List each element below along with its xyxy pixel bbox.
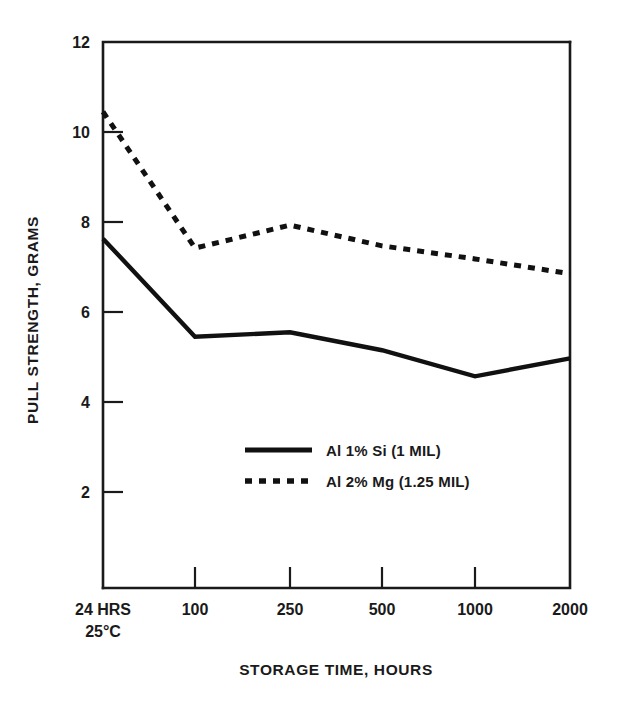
x-tick-label-100: 100 [182, 601, 209, 618]
pull-strength-line-chart: 12 10 8 6 4 2 24 HRS 25°C 100 250 500 10… [0, 0, 620, 709]
x-tick-label-1000: 1000 [457, 601, 493, 618]
y-tick-label-4: 4 [81, 394, 90, 411]
y-tick-label-8: 8 [81, 214, 90, 231]
y-axis-title: PULL STRENGTH, GRAMS [24, 216, 41, 424]
y-tick-label-6: 6 [81, 304, 90, 321]
x-tick-label-500: 500 [369, 601, 396, 618]
x-tick-label-25c: 25°C [85, 623, 121, 640]
x-axis-title: STORAGE TIME, HOURS [239, 661, 433, 678]
y-tick-label-10: 10 [72, 124, 90, 141]
chart-figure: 12 10 8 6 4 2 24 HRS 25°C 100 250 500 10… [0, 0, 620, 709]
x-tick-label-24hrs: 24 HRS [75, 601, 131, 618]
y-tick-label-2: 2 [81, 484, 90, 501]
x-tick-label-250: 250 [277, 601, 304, 618]
legend-label-al-2pct-mg: Al 2% Mg (1.25 MIL) [326, 473, 470, 490]
x-tick-label-2000: 2000 [552, 601, 588, 618]
legend-label-al-1pct-si: Al 1% Si (1 MIL) [326, 442, 441, 459]
y-tick-label-12: 12 [72, 34, 90, 51]
